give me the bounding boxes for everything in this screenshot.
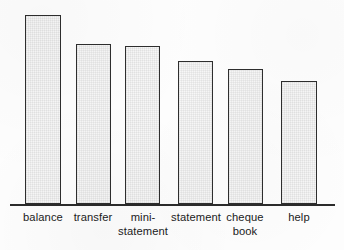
bar-cheque-book[interactable] — [228, 69, 263, 204]
x-tick-label-mini-statement-line2: statement — [98, 225, 188, 239]
bar-help[interactable] — [281, 81, 317, 204]
x-tick-label-cheque-book-line2: book — [200, 225, 290, 239]
x-axis-line — [10, 204, 335, 206]
bar-transfer[interactable] — [76, 44, 111, 204]
x-tick-label-help: help — [254, 211, 344, 225]
bar-chart: balance transfer mini- statement stateme… — [0, 0, 344, 250]
plot-area: balance transfer mini- statement stateme… — [0, 0, 344, 250]
bar-statement[interactable] — [178, 61, 213, 204]
x-tick-label-help-line1: help — [288, 211, 310, 223]
bar-balance[interactable] — [25, 15, 61, 204]
bar-mini-statement[interactable] — [125, 46, 160, 204]
